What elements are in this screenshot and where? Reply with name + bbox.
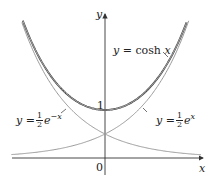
exp-pos-curve [11, 21, 188, 155]
exp-pos-label: y =12ex [156, 112, 195, 129]
exp-neg-label: y =12e−x [16, 112, 62, 129]
y-axis-label: y [96, 9, 102, 20]
cosh-label: yy = cosh = cosh x [113, 45, 171, 56]
cosh-diagram: y x 0 1 yy = cosh = cosh x y =12e−x y =1… [0, 0, 212, 187]
exp-neg-curve [22, 23, 201, 155]
one-label: 1 [97, 100, 104, 111]
origin-label: 0 [96, 162, 103, 173]
exp-pos-pointer [143, 108, 147, 112]
x-axis-label: x [199, 163, 205, 174]
plot-area [0, 0, 212, 187]
